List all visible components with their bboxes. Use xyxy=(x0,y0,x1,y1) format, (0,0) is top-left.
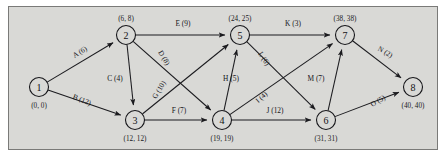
node-number-2: 2 xyxy=(124,30,129,41)
edge-label-j: J (12) xyxy=(266,106,284,115)
edge-o xyxy=(335,92,399,116)
node-times-2: (6, 8) xyxy=(118,15,134,23)
node-number-1: 1 xyxy=(37,82,42,93)
node-number-3: 3 xyxy=(133,115,138,126)
edge-label-a: A (6) xyxy=(71,44,89,60)
node-number-6: 6 xyxy=(324,115,329,126)
node-7[interactable]: 7(38, 38) xyxy=(334,15,357,45)
edge-label-b: B (12) xyxy=(71,92,93,108)
edge-g xyxy=(142,45,228,115)
edge-label-f: F (7) xyxy=(172,106,187,115)
node-times-7: (38, 38) xyxy=(334,15,357,23)
edge-label-g: G (10) xyxy=(150,79,168,101)
node-5[interactable]: 5(24, 25) xyxy=(229,15,252,45)
node-6[interactable]: 6(31, 31) xyxy=(315,111,338,144)
node-number-7: 7 xyxy=(343,30,348,41)
edge-n xyxy=(353,41,401,78)
edge-label-m: M (7) xyxy=(307,74,325,83)
screenshot-canvas: 1(0, 0)2(6, 8)3(12, 12)4(19, 19)5(24, 25… xyxy=(0,0,446,161)
node-times-6: (31, 31) xyxy=(315,135,338,143)
edge-label-n: N (2) xyxy=(376,44,395,60)
edge-label-e: E (9) xyxy=(176,19,192,28)
node-2[interactable]: 2(6, 8) xyxy=(117,15,136,45)
node-3[interactable]: 3(12, 12) xyxy=(124,111,147,144)
edge-label-i: I (4) xyxy=(254,89,270,105)
edge-d xyxy=(133,41,211,110)
node-number-8: 8 xyxy=(411,82,416,93)
node-8[interactable]: 8(40, 40) xyxy=(402,78,425,111)
edge-label-o: O (5) xyxy=(369,93,388,109)
edge-label-c: C (4) xyxy=(107,74,123,83)
edge-m xyxy=(328,50,342,111)
node-number-5: 5 xyxy=(238,30,243,41)
node-4[interactable]: 4(19, 19) xyxy=(211,111,234,144)
edge-c xyxy=(127,44,133,105)
network-diagram-figure: 1(0, 0)2(6, 8)3(12, 12)4(19, 19)5(24, 25… xyxy=(8,6,438,150)
node-times-3: (12, 12) xyxy=(124,135,147,143)
node-number-4: 4 xyxy=(220,115,225,126)
node-times-8: (40, 40) xyxy=(402,102,425,110)
edge-label-k: K (3) xyxy=(285,19,301,28)
node-1[interactable]: 1(0, 0) xyxy=(30,78,49,111)
network-diagram-svg: 1(0, 0)2(6, 8)3(12, 12)4(19, 19)5(24, 25… xyxy=(9,7,439,151)
edge-label-h: H (5) xyxy=(223,74,239,83)
node-times-4: (19, 19) xyxy=(211,135,234,143)
node-times-5: (24, 25) xyxy=(229,15,252,23)
node-times-1: (0, 0) xyxy=(31,102,47,110)
